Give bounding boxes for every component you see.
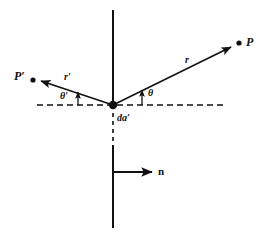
physics-diagram: P P′ r r′ θ θ′ da′ n [0,0,262,238]
ray-r-label: r [185,55,189,65]
point-p-prime-label: P′ [14,70,25,82]
point-p-marker [236,40,241,45]
point-p-label: P [246,36,253,48]
diagram-canvas [0,0,262,238]
angle-theta-prime-label: θ′ [60,91,68,101]
ray-r-to-p [113,47,231,105]
angle-theta-label: θ [148,88,153,98]
surface-element-marker [109,101,117,109]
normal-vector-label: n [158,166,164,177]
ray-r-prime-to-p-prime [41,81,113,105]
point-p-prime-marker [30,77,35,82]
area-element-label: da′ [117,113,130,123]
ray-r-prime-label: r′ [64,72,71,82]
